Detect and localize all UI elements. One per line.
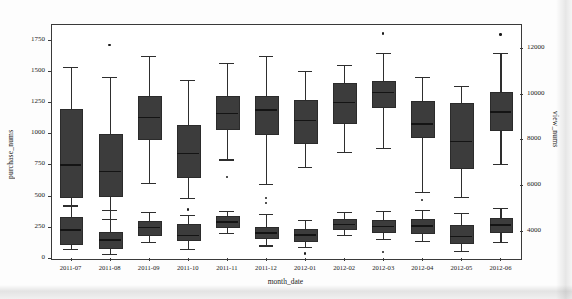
x-tick-mark [344,258,345,261]
whisker-upper [71,67,72,109]
cap-upper [493,208,508,209]
median-line [411,123,433,124]
y-tick-mark-left [48,71,51,72]
whisker-upper [344,65,345,83]
whisker-upper [500,208,501,218]
cap-lower [415,192,430,193]
whisker-upper [461,213,462,226]
whisker-upper [461,86,462,103]
chart-page: purchase_nums view_nums month_date 02505… [0,0,572,299]
median-line [333,224,355,225]
box [450,225,474,243]
outlier-point [187,208,189,210]
y-tick-label-left: 1250 [17,97,45,105]
whisker-upper [71,205,72,216]
cap-lower [298,247,313,248]
y-tick-label-left: 1750 [17,35,45,43]
x-tick-mark [305,258,306,261]
cap-lower [102,254,117,255]
cap-upper [454,213,469,214]
whisker-upper [305,220,306,229]
whisker-lower [344,122,345,152]
cap-lower [337,152,352,153]
outlier-point [226,176,228,178]
box [60,109,84,197]
median-line [372,226,394,227]
cap-lower [415,241,430,242]
y-tick-label-right: 12000 [527,43,557,51]
cap-upper [415,210,430,211]
y-tick-mark-left [48,40,51,41]
box [255,96,279,135]
whisker-lower [227,128,228,159]
x-tick-label: 2011-12 [244,264,288,271]
cap-lower [259,184,274,185]
whisker-upper [422,210,423,219]
box [450,103,474,169]
cap-lower [454,197,469,198]
y-tick-label-right: 8000 [527,134,557,142]
outlier-point [304,252,306,254]
x-tick-mark [266,258,267,261]
box [333,83,357,124]
median-line [177,153,199,154]
whisker-lower [383,106,384,148]
x-tick-label: 2011-07 [49,264,93,271]
median-line [255,232,277,233]
x-tick-mark [110,258,111,261]
y-tick-mark-left [48,227,51,228]
x-tick-label: 2012-05 [439,264,483,271]
page-edge-shadow-bottom [0,285,572,299]
x-tick-mark [383,258,384,261]
y-tick-mark-left [48,196,51,197]
cap-lower [219,159,234,160]
whisker-lower [266,133,267,184]
whisker-lower [461,167,462,197]
x-tick-mark [149,258,150,261]
median-line [294,234,316,235]
median-line [177,235,199,236]
median-line [216,221,238,222]
y-tick-label-left: 750 [17,159,45,167]
whisker-upper [383,53,384,81]
cap-upper [376,53,391,54]
whisker-upper [227,63,228,96]
cap-lower [493,164,508,165]
whisker-upper [188,80,189,126]
cap-upper [141,212,156,213]
x-tick-label: 2012-02 [322,264,366,271]
cap-upper [63,205,78,206]
x-axis-label: month_date [51,277,520,286]
median-line [216,113,238,114]
median-line [138,117,160,118]
x-tick-label: 2011-09 [127,264,171,271]
cap-lower [180,198,195,199]
x-tick-label: 2012-01 [283,264,327,271]
y-tick-mark-right [520,185,523,186]
y-tick-label-right: 4000 [527,226,557,234]
median-line [490,224,512,225]
x-tick-mark [71,258,72,261]
y-tick-label-left: 250 [17,222,45,230]
y-tick-label-right: 10000 [527,89,557,97]
y-tick-label-left: 0 [17,253,45,261]
cap-upper [415,77,430,78]
median-line [294,120,316,121]
x-tick-label: 2011-08 [88,264,132,271]
box [177,224,201,241]
whisker-lower [188,176,189,198]
x-tick-mark [422,258,423,261]
y-tick-mark-left [48,258,51,259]
box [411,101,435,139]
y-tick-label-right: 6000 [527,180,557,188]
cap-lower [141,242,156,243]
x-tick-mark [500,258,501,261]
y-tick-mark-left [48,102,51,103]
cap-upper [141,56,156,57]
x-tick-label: 2012-06 [478,264,522,271]
cap-upper [180,215,195,216]
x-tick-label: 2011-10 [166,264,210,271]
y-tick-label-left: 1000 [17,128,45,136]
y-tick-mark-left [48,133,51,134]
y-tick-label-left: 1500 [17,66,45,74]
